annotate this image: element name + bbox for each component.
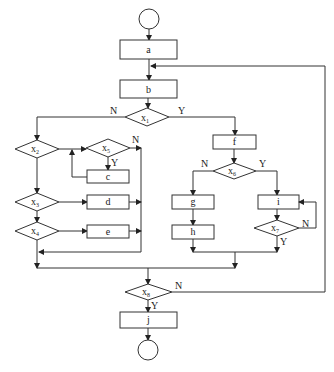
flowchart: a b x1 N Y x2 x5 N Y c x3: [0, 0, 334, 372]
svg-text:g: g: [191, 196, 196, 207]
decision-x4: x4: [15, 222, 59, 240]
process-a: a: [120, 40, 177, 59]
process-j: j: [120, 312, 177, 328]
decision-x2: x2: [15, 140, 59, 158]
process-h: h: [172, 225, 214, 239]
decision-x6: x6: [213, 163, 256, 179]
svg-text:b: b: [146, 84, 151, 95]
svg-text:i: i: [277, 196, 280, 207]
svg-text:h: h: [191, 226, 196, 237]
process-e: e: [87, 225, 129, 238]
decision-x8: x8: [125, 284, 172, 300]
svg-text:N: N: [110, 105, 117, 116]
svg-text:Y: Y: [111, 157, 118, 168]
decision-x7: x7: [254, 220, 299, 236]
svg-text:Y: Y: [280, 236, 287, 247]
svg-text:e: e: [106, 226, 111, 237]
end-terminal: [138, 340, 158, 360]
process-b: b: [120, 80, 177, 98]
decision-x1: x1: [125, 108, 169, 126]
start-terminal: [139, 9, 159, 29]
svg-text:Y: Y: [151, 300, 158, 311]
svg-text:N: N: [132, 134, 139, 145]
decision-x3: x3: [15, 193, 59, 211]
process-i: i: [258, 195, 299, 209]
svg-text:N: N: [302, 218, 309, 229]
x8-no-loop: [151, 66, 325, 292]
process-d: d: [87, 195, 129, 209]
svg-text:c: c: [106, 171, 111, 182]
svg-text:a: a: [146, 44, 151, 55]
svg-text:N: N: [175, 280, 182, 291]
process-c: c: [87, 170, 129, 183]
svg-text:Y: Y: [259, 158, 266, 169]
svg-text:j: j: [146, 314, 150, 325]
process-f: f: [213, 135, 256, 149]
decision-x5: x5: [86, 139, 130, 157]
svg-text:Y: Y: [178, 105, 185, 116]
process-g: g: [172, 195, 214, 209]
svg-text:N: N: [201, 158, 208, 169]
svg-text:d: d: [106, 196, 111, 207]
